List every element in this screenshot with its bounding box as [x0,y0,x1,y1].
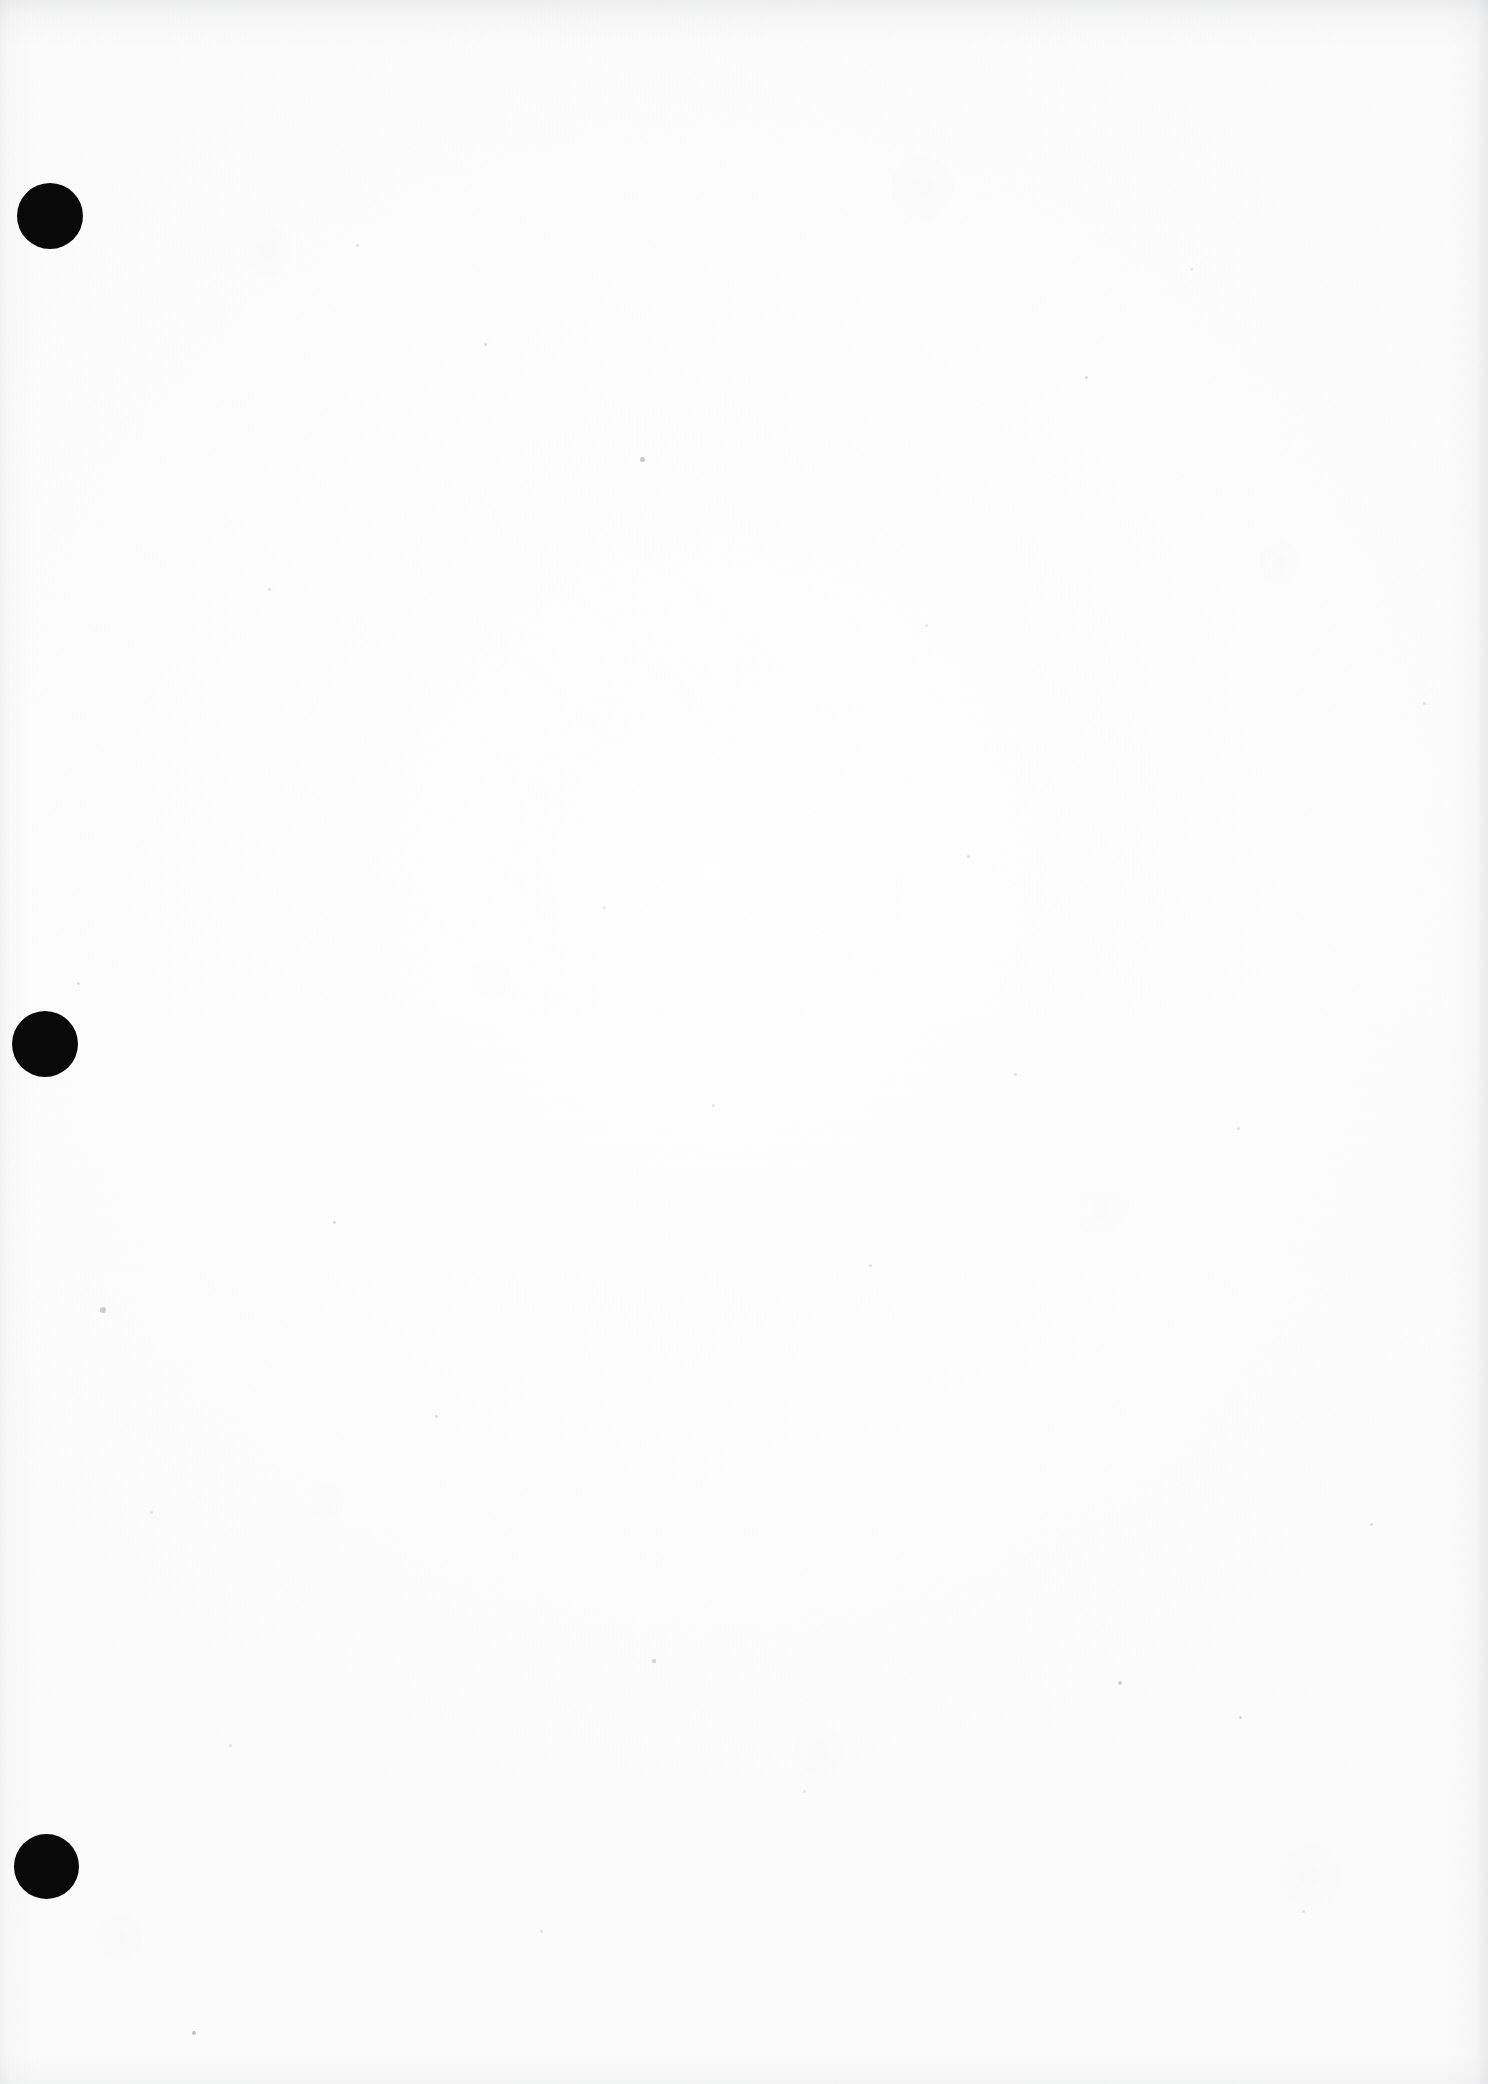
paper-speck [540,1930,543,1933]
paper-speck [1237,1127,1240,1130]
paper-speck [484,343,487,346]
paper-speck [192,2031,196,2035]
paper-speck [869,1264,872,1267]
punch-hole-top [17,183,83,249]
paper-speck [100,1307,106,1313]
paper-speck [435,1415,438,1418]
paper-speck [640,457,645,462]
paper-speck [356,244,359,247]
paper-speck [1118,1681,1122,1685]
paper-speck [603,906,606,909]
paper-speck [1302,1910,1305,1913]
punch-hole-middle [12,1011,78,1077]
paper-speck [967,855,970,858]
paper-speck [712,1104,715,1107]
paper-speck [1239,1716,1242,1719]
paper-speck [150,1511,153,1514]
scanned-page [0,0,1488,2084]
paper-speck [1085,376,1088,379]
punch-hole-bottom [14,1834,79,1899]
paper-speck [803,1790,806,1793]
paper-speck [1423,702,1426,705]
paper-speck [1370,1523,1373,1526]
paper-speck [925,624,928,627]
page-content-area [0,0,1488,2084]
paper-speck [1014,1073,1017,1076]
paper-speck [1190,268,1193,271]
paper-speck [268,588,271,591]
paper-speck [333,1221,336,1224]
paper-speck [77,982,80,985]
paper-speck [229,1744,232,1747]
paper-speck [652,1659,656,1663]
